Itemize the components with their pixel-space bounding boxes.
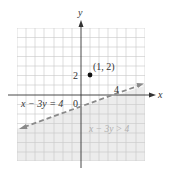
origin-label: 0 — [73, 98, 78, 109]
line-equation-label: x − 3y = 4 — [20, 98, 63, 109]
point-label: (1, 2) — [93, 61, 115, 73]
y-axis-arrow-icon — [79, 20, 84, 27]
y-axis-label: y — [77, 7, 83, 18]
x-tick-4: 4 — [114, 84, 119, 95]
region-inequality-label: x − 3y > 4 — [88, 124, 130, 134]
graph: y x (1, 2) 2 4 0 x − 3y = 4 x − 3y > 4 — [0, 0, 173, 172]
point-marker — [88, 73, 93, 78]
x-axis-label: x — [157, 89, 163, 100]
y-tick-2: 2 — [73, 70, 78, 81]
x-axis-arrow-icon — [149, 93, 156, 98]
